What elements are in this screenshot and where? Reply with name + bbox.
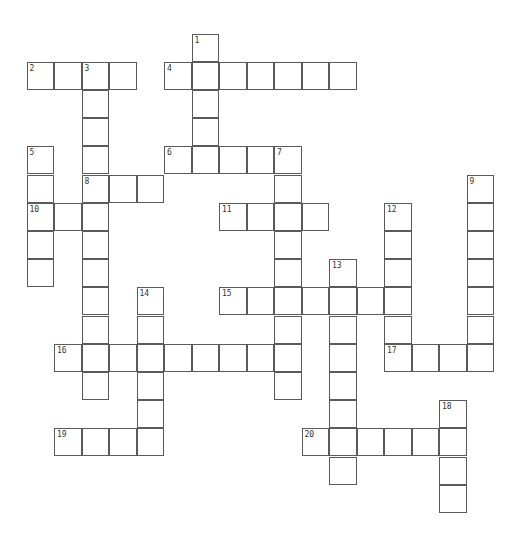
grid-cell[interactable] [137, 428, 165, 456]
grid-cell[interactable] [274, 259, 302, 287]
grid-cell[interactable] [82, 146, 110, 174]
grid-cell[interactable] [274, 203, 302, 231]
grid-cell[interactable] [357, 287, 385, 315]
grid-cell[interactable] [82, 372, 110, 400]
grid-cell[interactable] [82, 231, 110, 259]
grid-cell[interactable] [109, 62, 137, 90]
grid-cell[interactable] [137, 316, 165, 344]
grid-cell[interactable] [54, 203, 82, 231]
grid-cell[interactable] [247, 146, 275, 174]
grid-cell[interactable]: 16 [54, 344, 82, 372]
grid-cell[interactable] [439, 428, 467, 456]
grid-cell[interactable] [82, 90, 110, 118]
grid-cell[interactable]: 15 [219, 287, 247, 315]
grid-cell[interactable]: 2 [27, 62, 55, 90]
grid-cell[interactable] [219, 344, 247, 372]
grid-cell[interactable]: 12 [384, 203, 412, 231]
grid-cell[interactable] [467, 231, 495, 259]
grid-cell[interactable]: 14 [137, 287, 165, 315]
grid-cell[interactable] [192, 344, 220, 372]
grid-cell[interactable] [412, 344, 440, 372]
grid-cell[interactable] [247, 287, 275, 315]
grid-cell[interactable] [384, 259, 412, 287]
grid-cell[interactable] [274, 175, 302, 203]
grid-cell[interactable] [384, 428, 412, 456]
grid-cell[interactable] [467, 287, 495, 315]
grid-cell[interactable] [192, 90, 220, 118]
grid-cell[interactable] [27, 231, 55, 259]
grid-cell[interactable] [329, 372, 357, 400]
grid-cell[interactable] [274, 344, 302, 372]
grid-cell[interactable] [54, 62, 82, 90]
grid-cell[interactable] [192, 118, 220, 146]
grid-cell[interactable] [329, 428, 357, 456]
grid-cell[interactable]: 20 [302, 428, 330, 456]
grid-cell[interactable]: 8 [82, 175, 110, 203]
grid-cell[interactable] [82, 428, 110, 456]
grid-cell[interactable]: 13 [329, 259, 357, 287]
grid-cell[interactable] [467, 316, 495, 344]
grid-cell[interactable]: 4 [164, 62, 192, 90]
grid-cell[interactable] [384, 316, 412, 344]
grid-cell[interactable]: 5 [27, 146, 55, 174]
grid-cell[interactable]: 19 [54, 428, 82, 456]
grid-cell[interactable]: 1 [192, 34, 220, 62]
grid-cell[interactable] [412, 428, 440, 456]
grid-cell[interactable]: 18 [439, 400, 467, 428]
grid-cell[interactable] [247, 344, 275, 372]
grid-cell[interactable] [467, 203, 495, 231]
grid-cell[interactable] [439, 485, 467, 513]
grid-cell[interactable] [274, 316, 302, 344]
grid-cell[interactable] [247, 62, 275, 90]
grid-cell[interactable] [27, 175, 55, 203]
grid-cell[interactable] [82, 316, 110, 344]
grid-cell[interactable] [329, 287, 357, 315]
grid-cell[interactable] [109, 344, 137, 372]
grid-cell[interactable] [164, 344, 192, 372]
grid-cell[interactable] [384, 231, 412, 259]
grid-cell[interactable] [302, 62, 330, 90]
grid-cell[interactable] [329, 457, 357, 485]
grid-cell[interactable] [302, 287, 330, 315]
grid-cell[interactable] [27, 259, 55, 287]
grid-cell[interactable] [329, 62, 357, 90]
grid-cell[interactable] [109, 428, 137, 456]
grid-cell[interactable] [274, 231, 302, 259]
grid-cell[interactable]: 10 [27, 203, 55, 231]
clue-number: 19 [57, 431, 67, 439]
grid-cell[interactable] [82, 259, 110, 287]
grid-cell[interactable] [439, 344, 467, 372]
grid-cell[interactable] [329, 316, 357, 344]
grid-cell[interactable] [384, 287, 412, 315]
grid-cell[interactable] [219, 62, 247, 90]
grid-cell[interactable] [274, 62, 302, 90]
grid-cell[interactable]: 3 [82, 62, 110, 90]
grid-cell[interactable] [137, 175, 165, 203]
grid-cell[interactable]: 7 [274, 146, 302, 174]
grid-cell[interactable] [137, 372, 165, 400]
grid-cell[interactable] [82, 287, 110, 315]
grid-cell[interactable] [82, 118, 110, 146]
grid-cell[interactable] [109, 175, 137, 203]
grid-cell[interactable]: 6 [164, 146, 192, 174]
grid-cell[interactable] [467, 344, 495, 372]
grid-cell[interactable] [439, 457, 467, 485]
grid-cell[interactable] [82, 344, 110, 372]
grid-cell[interactable] [329, 400, 357, 428]
grid-cell[interactable] [302, 203, 330, 231]
grid-cell[interactable] [219, 146, 247, 174]
grid-cell[interactable]: 9 [467, 175, 495, 203]
grid-cell[interactable] [274, 287, 302, 315]
grid-cell[interactable] [192, 146, 220, 174]
grid-cell[interactable] [82, 203, 110, 231]
grid-cell[interactable] [247, 203, 275, 231]
grid-cell[interactable] [137, 400, 165, 428]
grid-cell[interactable] [357, 428, 385, 456]
grid-cell[interactable] [274, 372, 302, 400]
grid-cell[interactable]: 17 [384, 344, 412, 372]
grid-cell[interactable] [467, 259, 495, 287]
grid-cell[interactable] [137, 344, 165, 372]
grid-cell[interactable] [329, 344, 357, 372]
grid-cell[interactable] [192, 62, 220, 90]
grid-cell[interactable]: 11 [219, 203, 247, 231]
